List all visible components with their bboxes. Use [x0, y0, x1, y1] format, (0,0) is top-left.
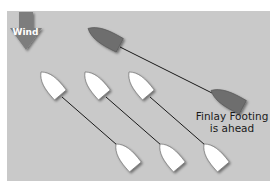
wind-label: Wind	[9, 27, 42, 37]
white-boat-bottom-1	[110, 139, 141, 172]
white-boat-top-2	[79, 67, 110, 100]
caption-line-2: is ahead	[186, 122, 278, 134]
white-boat-top-3	[123, 67, 154, 100]
white-boat-top-1	[35, 67, 66, 100]
dark-boat-upper	[84, 21, 123, 52]
white-boat-bottom-3	[198, 139, 229, 172]
white-boat-line-2	[106, 97, 161, 145]
caption-line-1: Finlay Footing	[186, 110, 278, 122]
white-boat-line-1	[62, 97, 117, 145]
white-boat-bottom-2	[154, 139, 185, 172]
caption: Finlay Footing is ahead	[186, 110, 278, 134]
